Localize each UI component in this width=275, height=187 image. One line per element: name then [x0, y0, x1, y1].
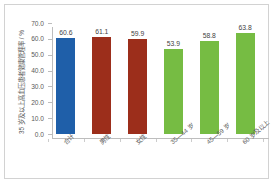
- y-tick-label: 0.0: [16, 131, 44, 138]
- chart-figure-frame: 35 岁及以上高血压患者健康管理率 / % 0.010.020.030.040.…: [4, 4, 269, 179]
- x-tick-mark: [156, 139, 157, 142]
- y-tick-mark: [48, 134, 52, 135]
- y-tick-label: 20.0: [16, 99, 44, 106]
- bar: [164, 49, 183, 134]
- y-axis-title: 35 岁及以上高血压患者健康管理率 / %: [15, 0, 28, 32]
- y-tick-label: 30.0: [16, 83, 44, 90]
- y-tick-label: 40.0: [16, 67, 44, 74]
- x-tick-mark: [191, 139, 192, 142]
- bar-value-label: 53.9: [159, 40, 187, 48]
- bar: [200, 41, 219, 134]
- x-category-label: 合计: [62, 132, 76, 146]
- y-tick-label: 10.0: [16, 115, 44, 122]
- plot-area: [48, 23, 263, 134]
- bar: [92, 37, 111, 134]
- y-tick-label: 50.0: [16, 51, 44, 58]
- x-tick-mark: [84, 139, 85, 142]
- bar-value-label: 60.6: [52, 29, 80, 37]
- y-tick-label: 60.0: [16, 35, 44, 42]
- bar: [236, 33, 255, 134]
- bar: [128, 39, 147, 134]
- bar-value-label: 59.9: [124, 30, 152, 38]
- x-category-label: 男性: [98, 132, 112, 146]
- x-tick-mark: [120, 139, 121, 142]
- x-tick-mark: [227, 139, 228, 142]
- x-tick-mark: [263, 139, 264, 142]
- x-tick-mark: [48, 139, 49, 142]
- x-category-label: 女性: [134, 132, 148, 146]
- bar: [56, 38, 75, 134]
- bar-value-label: 63.8: [231, 24, 259, 32]
- bar-value-label: 61.1: [88, 28, 116, 36]
- y-tick-label: 70.0: [16, 20, 44, 27]
- bar-value-label: 58.8: [195, 32, 223, 40]
